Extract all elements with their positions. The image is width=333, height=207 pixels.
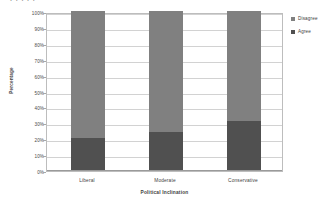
bar-conservative bbox=[227, 11, 261, 170]
cropped-header-strip: l l l l l bbox=[0, 0, 333, 9]
bar-segment-disagree bbox=[71, 11, 105, 138]
legend-label: Disagree bbox=[298, 16, 318, 21]
legend-label: Agree bbox=[298, 29, 311, 34]
bar-segment-agree bbox=[149, 132, 183, 170]
x-axis-title: Political Inclination bbox=[46, 190, 283, 195]
bar-moderate bbox=[149, 11, 183, 170]
bar-segment-agree bbox=[71, 138, 105, 170]
bar-segment-agree bbox=[227, 121, 261, 170]
bar-segment-disagree bbox=[227, 11, 261, 121]
y-axis-tick-marks bbox=[0, 13, 46, 172]
legend-swatch-icon bbox=[291, 30, 295, 34]
x-axis-line bbox=[47, 170, 282, 171]
y-axis-tick-mark bbox=[43, 172, 46, 173]
x-axis-tick-label-conservative: Conservative bbox=[208, 178, 278, 183]
legend-item-agree[interactable]: Agree bbox=[291, 29, 318, 34]
bar-segment-disagree bbox=[149, 11, 183, 132]
plot-area bbox=[46, 13, 283, 172]
chart-legend: DisagreeAgree bbox=[291, 16, 318, 42]
legend-item-disagree[interactable]: Disagree bbox=[291, 16, 318, 21]
legend-swatch-icon bbox=[291, 17, 295, 21]
x-axis-tick-label-liberal: Liberal bbox=[52, 178, 122, 183]
cropped-header-text: l l l l l bbox=[10, 0, 35, 3]
bar-liberal bbox=[71, 11, 105, 170]
x-axis-tick-label-moderate: Moderate bbox=[130, 178, 200, 183]
